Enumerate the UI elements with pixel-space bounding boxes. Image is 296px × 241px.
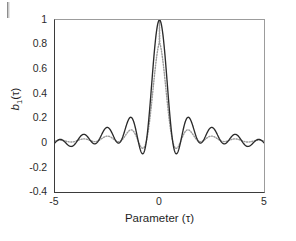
x-tick-label: -5 [34, 196, 74, 207]
y-axis-label-variable: b [9, 104, 21, 110]
x-tick-label: 5 [244, 196, 284, 207]
dotted-curve [55, 20, 264, 148]
y-axis-label-subscript: 1 [15, 100, 24, 104]
figure-container: 1 0.8 0.6 0.4 0.2 0 -0.2 -0.4 -5 0 5 Par… [0, 0, 296, 241]
y-axis-label: b1(τ) [9, 88, 21, 111]
curves-svg [55, 20, 264, 192]
y-axis-label-argument: (τ) [9, 88, 21, 100]
y-tick-label: 1 [0, 14, 47, 25]
y-tick-label: -0.4 [0, 186, 47, 197]
y-tick-label: -0.2 [0, 162, 47, 173]
y-axis-label-wrapper: b1(τ) [5, 39, 23, 159]
plot-area [54, 19, 265, 193]
x-axis-label: Parameter (τ) [54, 212, 265, 225]
x-tick-label: 0 [139, 196, 179, 207]
